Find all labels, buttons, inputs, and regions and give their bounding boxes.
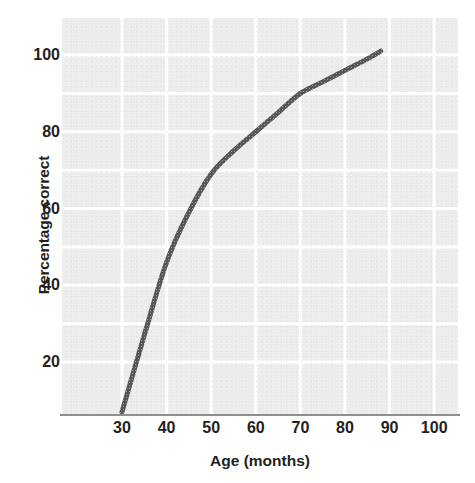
y-axis-tick-label: 40 [14,277,60,293]
x-axis-line [60,414,460,416]
plot-canvas [62,18,458,414]
data-series-line [122,51,381,412]
vertical-gridlines [122,18,434,414]
y-axis-tick-label: 60 [14,201,60,217]
x-axis-tick-label: 100 [404,420,464,436]
x-axis-title: Age (months) [62,452,458,470]
plot-area [62,18,458,414]
line-chart-figure: Percentage correct 10080604020 304050607… [0,0,475,483]
y-axis-tick-label: 100 [14,47,60,63]
y-axis-tick-label: 80 [14,124,60,140]
y-axis-tick-label: 20 [14,354,60,370]
x-axis-tick-labels: 30405060708090100 [0,420,475,444]
y-axis-tick-labels: 10080604020 [14,0,60,483]
